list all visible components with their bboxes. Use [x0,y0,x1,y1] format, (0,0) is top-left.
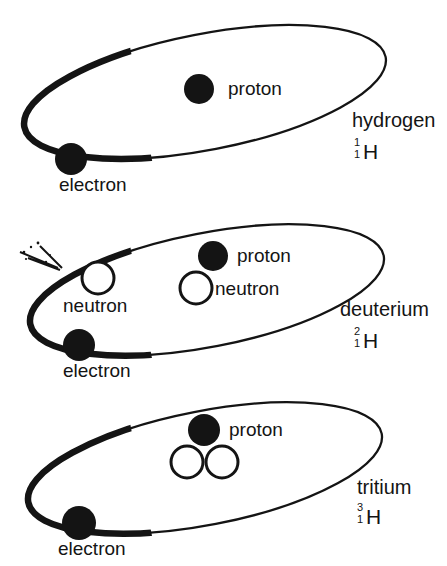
tritium-proton-label: proton [229,420,283,439]
deuterium-electron [63,329,95,361]
deuterium-proton-label: proton [237,246,291,265]
hydrogen-proton-label: proton [228,79,282,98]
deuterium-isotope-notation: 2 1 H [354,327,378,351]
hydrogen-electron [55,143,87,175]
deuterium-name-label: deuterium [340,299,429,319]
hydrogen-electron-label: electron [59,175,127,194]
hydrogen-proton [184,74,214,104]
deuterium-neutron-outer [82,262,114,294]
tritium-atomic-number: 1 [357,514,363,525]
tritium-name-label: tritium [357,477,411,497]
deuterium-proton [198,241,228,271]
deuterium-electron-label: electron [63,361,131,380]
tritium-neutron-right [206,446,238,478]
deuterium-neutron-label-inner: neutron [215,279,279,298]
deuterium-symbol: H [363,329,378,352]
tritium-isotope-notation: 3 1 H [357,503,381,527]
hydrogen-symbol: H [363,140,378,163]
tritium-neutron-left [171,446,203,478]
hydrogen-isotope-notation: 1 1 H [354,138,378,162]
isotope-diagram: proton electron hydrogen 1 1 H proton ne… [0,0,447,566]
deuterium-atomic-number: 1 [354,338,360,349]
tritium-proton [188,414,220,446]
deuterium-mass-number: 2 [354,326,360,337]
tritium-symbol: H [366,505,381,528]
tritium-mass-number: 3 [357,502,363,513]
deuterium-neutron-inner [180,272,212,304]
hydrogen-atomic-number: 1 [354,149,360,160]
hydrogen-mass-number: 1 [354,137,360,148]
hydrogen-name-label: hydrogen [352,110,435,130]
tritium-electron-label: electron [58,539,126,558]
deuterium-neutron-label-outer: neutron [63,296,127,315]
tritium-electron [62,506,96,540]
